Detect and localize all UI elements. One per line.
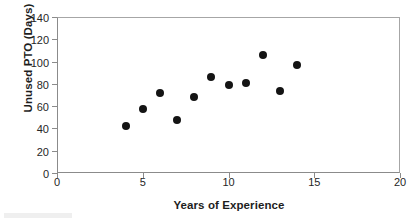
y-axis-tick: 20 (52, 151, 57, 152)
data-point (225, 81, 233, 89)
y-axis-tick-label: 0 (43, 168, 49, 180)
x-axis-tick-label: 5 (140, 176, 146, 188)
y-axis-tick: 100 (52, 62, 57, 63)
scatter-chart-figure: Unused PTO (Days) 0204060801001201400510… (0, 0, 415, 222)
y-axis-tick: 120 (52, 39, 57, 40)
plot-area: 02040608010012014005101520 (57, 17, 400, 173)
y-axis-tick-label: 40 (37, 123, 49, 135)
data-point (259, 51, 267, 59)
y-axis-tick-label: 120 (31, 34, 49, 46)
data-point (139, 105, 147, 113)
y-axis-tick-label: 20 (37, 146, 49, 158)
x-axis-title: Years of Experience (57, 199, 401, 211)
data-point (122, 122, 130, 130)
data-point (207, 73, 215, 81)
data-point (173, 116, 181, 124)
x-axis-tick-label: 20 (394, 176, 406, 188)
data-point (190, 93, 198, 101)
y-axis-tick-label: 60 (37, 101, 49, 113)
y-axis-tick-label: 100 (31, 57, 49, 69)
y-axis-tick: 140 (52, 17, 57, 18)
data-point (293, 61, 301, 69)
y-axis-tick: 60 (52, 106, 57, 107)
x-axis-tick-label: 10 (222, 176, 234, 188)
scan-artifact (4, 213, 72, 218)
y-axis-tick: 80 (52, 84, 57, 85)
x-axis-tick-label: 15 (308, 176, 320, 188)
y-axis-tick-label: 80 (37, 79, 49, 91)
y-axis-tick: 40 (52, 128, 57, 129)
data-point (242, 79, 250, 87)
data-point (156, 89, 164, 97)
data-point (276, 87, 284, 95)
y-axis-tick-label: 140 (31, 12, 49, 24)
x-axis-tick-label: 0 (54, 176, 60, 188)
